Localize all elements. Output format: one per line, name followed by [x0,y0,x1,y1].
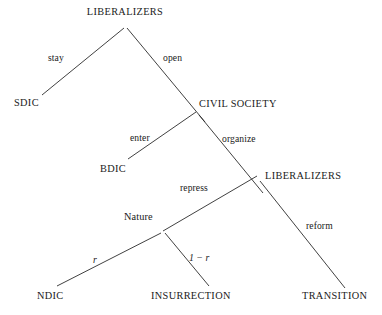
edge-reform [260,181,345,288]
edge-probability-r [57,233,161,286]
edge-label-enter: enter [130,132,150,143]
edge-organize [199,115,263,193]
edge-open [127,28,205,122]
game-tree-figure: LIBERALIZERS SDIC CIVIL SOCIETY BDIC LIB… [0,0,382,315]
node-outcome-insurrection: INSURRECTION [151,290,231,301]
edge-label-open: open [163,52,182,63]
node-nature: Nature [124,211,153,222]
node-outcome-bdic: BDIC [100,163,126,174]
node-liberalizers-second: LIBERALIZERS [265,170,341,181]
edge-group [42,28,345,288]
node-outcome-transition: TRANSITION [302,290,367,301]
edge-label-reform: reform [306,220,333,231]
edge-label-probability-one-minus-r: 1 − r [189,252,209,263]
node-root-liberalizers: LIBERALIZERS [87,6,163,17]
edge-repress [163,176,257,231]
game-tree-canvas: LIBERALIZERS SDIC CIVIL SOCIETY BDIC LIB… [0,0,382,315]
node-outcome-ndic: NDIC [37,290,64,301]
node-outcome-sdic: SDIC [14,97,39,108]
edge-label-organize: organize [222,133,256,144]
node-civil-society: CIVIL SOCIETY [199,98,277,109]
edge-label-repress: repress [180,182,208,193]
edge-label-stay: stay [48,52,64,63]
edge-label-group: stay open enter organize repress reform … [48,52,333,265]
edge-label-probability-r: r [93,254,97,265]
